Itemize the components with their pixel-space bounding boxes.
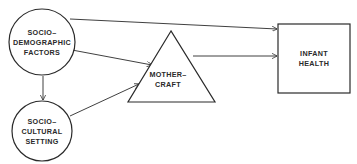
node-label-line: SOCIO–: [28, 117, 57, 126]
node-label-line: SOCIO–: [28, 28, 57, 37]
edge-demographic-to-mothercraft: [72, 50, 152, 65]
node-mothercraft: MOTHER– CRAFT: [128, 31, 215, 102]
triangle-shape: [128, 31, 215, 102]
node-socio-demographic-factors: SOCIO– DEMOGRAPHIC FACTORS: [9, 9, 75, 75]
causal-diagram: SOCIO– DEMOGRAPHIC FACTORS SOCIO– CULTUR…: [0, 0, 357, 164]
node-label-line: DEMOGRAPHIC: [13, 38, 71, 47]
node-label-line: CRAFT: [155, 80, 181, 89]
node-label-line: FACTORS: [24, 48, 60, 57]
edge-demographic-to-infant-health: [70, 19, 277, 29]
node-label-line: INFANT: [300, 49, 328, 58]
node-label-line: SETTING: [25, 137, 58, 146]
node-label-line: CULTURAL: [22, 127, 63, 136]
node-label-line: HEALTH: [299, 59, 329, 68]
node-label-line: MOTHER–: [149, 70, 186, 79]
node-socio-cultural-setting: SOCIO– CULTURAL SETTING: [12, 101, 72, 161]
node-infant-health: INFANT HEALTH: [278, 24, 350, 93]
